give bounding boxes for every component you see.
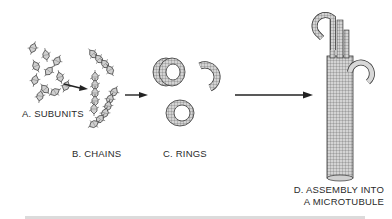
rings-cluster: [153, 58, 217, 126]
microtubule: [315, 15, 372, 181]
label-subunits: A. SUBUNITS: [22, 108, 84, 119]
arrow-b-to-c: [125, 92, 148, 98]
label-rings: C. RINGS: [163, 148, 207, 159]
microtubule-assembly-diagram: A. SUBUNITS B. CHAINS C. RINGS D. ASSEMB…: [0, 0, 392, 219]
chains-cluster: [85, 45, 122, 131]
caption-fragment: [25, 216, 365, 219]
label-assembly-line2: A MICROTUBULE: [280, 196, 384, 207]
label-assembly-line1: D. ASSEMBLY INTO: [280, 184, 384, 195]
subunits-cluster: [26, 40, 74, 104]
label-chains: B. CHAINS: [72, 148, 121, 159]
arrow-c-to-d: [235, 92, 313, 99]
